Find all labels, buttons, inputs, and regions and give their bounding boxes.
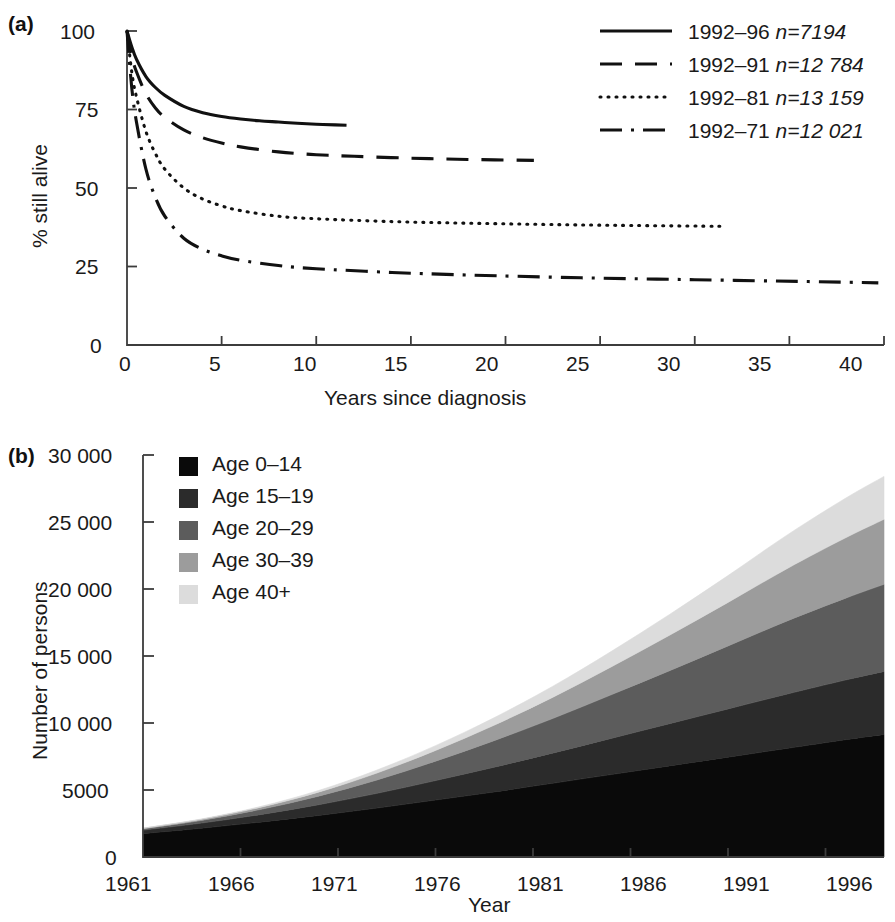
panel-b-legend-swatch-age-0-14 — [179, 457, 198, 476]
panel-b-legend-label-age-30-39: Age 30–39 — [212, 548, 314, 572]
panel-b-legend-label-age-15-19: Age 15–19 — [212, 484, 314, 508]
panel-b-legend-label-age-20-29: Age 20–29 — [212, 516, 314, 540]
panel-b-legend-swatch-age-40plus — [179, 585, 198, 604]
panel-b-plot — [0, 0, 895, 922]
figure-container: (a) % still alive Years since diagnosis … — [0, 0, 895, 922]
panel-b-legend-swatch-age-30-39 — [179, 553, 198, 572]
panel-b-legend-swatch-age-20-29 — [179, 521, 198, 540]
panel-b-legend-label-age-40plus: Age 40+ — [212, 580, 291, 604]
panel-b-legend-label-age-0-14: Age 0–14 — [212, 452, 302, 476]
panel-b-legend-swatch-age-15-19 — [179, 489, 198, 508]
